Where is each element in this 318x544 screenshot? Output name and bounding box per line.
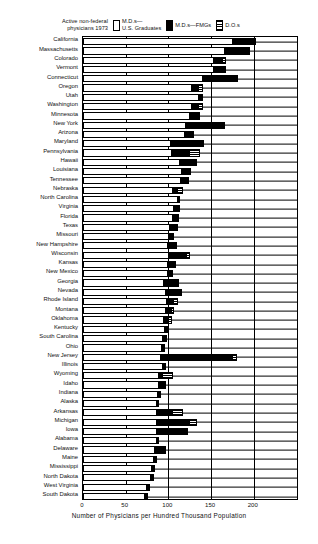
state-label: Illinois: [62, 360, 78, 370]
state-label: Nevada: [58, 286, 78, 296]
x-tick-label-0: 0: [80, 501, 83, 510]
stacked-bar: [83, 335, 167, 342]
fmg-swatch-icon: [166, 20, 173, 31]
state-label: New Mexico: [46, 267, 78, 277]
state-label: California: [53, 35, 78, 45]
bar-row: [83, 185, 297, 195]
us-graduates-segment: [83, 428, 156, 435]
state-label: Arkansas: [54, 407, 78, 417]
state-label: Massachusetts: [39, 45, 78, 55]
fmg-segment: [163, 279, 178, 286]
bar-rows: [83, 37, 297, 499]
fmg-segment: [156, 409, 173, 416]
state-label: Montana: [55, 305, 78, 315]
bar-row: [83, 464, 297, 474]
chart-legend: Active non-federal physicians 1973 M.D.s…: [62, 14, 314, 36]
state-label: Tennessee: [50, 175, 78, 185]
do-segment: [190, 419, 198, 426]
stacked-bar: [83, 279, 179, 286]
stacked-bar: [83, 307, 174, 314]
us-graduates-segment: [83, 205, 173, 212]
stacked-bar: [83, 131, 194, 138]
us-graduates-segment: [83, 391, 157, 398]
state-label: Mississippi: [50, 462, 78, 472]
bar-row: [83, 380, 297, 390]
state-label: Arizona: [58, 128, 78, 138]
fmg-segment: [165, 289, 182, 296]
fmg-segment: [202, 75, 238, 82]
us-graduates-segment: [83, 381, 158, 388]
us-graduates-segment: [83, 400, 156, 407]
legend-item-dos: D.O.s: [216, 20, 240, 31]
stacked-bar: [83, 484, 150, 491]
fmg-segment: [173, 205, 180, 212]
fmg-segment: [168, 252, 187, 259]
us-graduates-segment: [83, 103, 191, 110]
stacked-bar: [83, 214, 179, 221]
legend-label-dos: D.O.s: [225, 22, 240, 29]
state-label: Delaware: [53, 444, 78, 454]
us-graduates-segment: [83, 242, 167, 249]
bar-row: [83, 353, 297, 363]
fmg-segment: [189, 112, 200, 119]
us-graduates-segment: [83, 307, 165, 314]
state-label: Rhode Island: [44, 295, 78, 305]
fmg-segment: [198, 94, 202, 101]
us-graduates-segment: [83, 270, 167, 277]
stacked-bar: [83, 38, 256, 45]
state-label: Maine: [62, 453, 78, 463]
bar-row: [83, 74, 297, 84]
bar-row: [83, 492, 297, 502]
stacked-bar: [83, 187, 183, 194]
stacked-bar: [83, 428, 188, 435]
x-axis-ticks: 050100150200: [82, 501, 298, 510]
state-label: Vermont: [56, 63, 78, 73]
bar-row: [83, 46, 297, 56]
us-graduates-segment: [83, 196, 177, 203]
x-tick-label-50: 50: [121, 501, 128, 510]
us-graduates-segment: [83, 437, 156, 444]
bar-row: [83, 83, 297, 93]
stacked-bar: [83, 409, 183, 416]
stacked-bar: [83, 140, 204, 147]
us-graduates-segment: [83, 316, 163, 323]
fmg-segment: [156, 400, 159, 407]
us-graduates-segment: [83, 233, 168, 240]
legend-label-fmgs: M.D.s—FMGs: [175, 22, 211, 29]
stacked-bar: [83, 224, 178, 231]
bar-row: [83, 334, 297, 344]
stacked-bar: [83, 159, 197, 166]
bar-row: [83, 121, 297, 131]
stacked-bar: [83, 391, 161, 398]
state-label: Indiana: [59, 388, 78, 398]
fmg-segment: [168, 233, 175, 240]
do-segment: [178, 187, 183, 194]
do-swatch-icon: [216, 20, 223, 31]
state-label: New York: [53, 119, 78, 129]
fmg-segment: [158, 381, 166, 388]
us-graduates-segment: [83, 344, 161, 351]
fmg-segment: [169, 224, 178, 231]
us-graduates-segment: [83, 177, 180, 184]
fmg-segment: [213, 66, 225, 73]
state-label: Louisiana: [53, 165, 78, 175]
bar-row: [83, 306, 297, 316]
stacked-bar: [83, 177, 189, 184]
us-graduates-segment: [83, 326, 164, 333]
us-graduates-segment: [83, 252, 168, 259]
fmg-segment: [162, 363, 166, 370]
state-label: Nebraska: [53, 184, 78, 194]
fmg-segment: [153, 456, 157, 463]
fmg-segment: [177, 196, 180, 203]
stacked-bar: [83, 233, 174, 240]
x-tick-label-200: 200: [248, 501, 258, 510]
stacked-bar: [83, 47, 250, 54]
bar-row: [83, 390, 297, 400]
stacked-bar: [83, 372, 173, 379]
stacked-bar: [83, 252, 190, 259]
state-label: Georgia: [57, 277, 78, 287]
state-label: Iowa: [66, 425, 78, 435]
bar-row: [83, 417, 297, 427]
fmg-segment: [161, 344, 165, 351]
fmg-segment: [179, 159, 198, 166]
